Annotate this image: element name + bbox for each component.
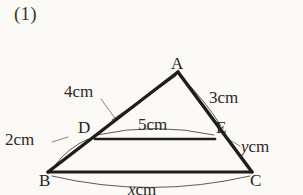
triangle-figure [0,0,303,195]
vertex-label-e: E [216,119,226,136]
measure-label-de: 5cm [138,116,167,133]
measure-label-bc: xcm [128,181,156,195]
measure-label-db: 2cm [5,131,34,148]
measure-bc-variable: x [128,180,136,195]
side-ac [178,72,252,172]
vertex-label-b: B [39,172,50,189]
measure-label-ae: 3cm [209,89,238,106]
figure-page: (1) A B C D E 4cm 3cm 5cm 2cm ycm xcm [0,0,303,195]
measure-label-ad: 4cm [64,83,93,100]
leader-db [52,137,68,142]
measure-label-ec: ycm [241,138,269,155]
measure-ec-unit: cm [249,137,270,156]
leader-ad [101,99,117,121]
vertex-label-a: A [171,55,183,72]
vertex-label-d: D [78,119,90,136]
measure-bc-unit: cm [136,180,157,195]
problem-number: (1) [14,4,37,23]
vertex-label-c: C [250,172,261,189]
measure-ec-variable: y [241,137,249,156]
